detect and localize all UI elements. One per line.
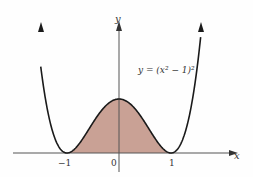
curve-left-arrow-icon [38,22,44,32]
tick-label-neg1: −1 [58,158,71,168]
plot-svg: y x y = (x² − 1)² −1 0 1 [0,0,253,177]
chart-figure: y x y = (x² − 1)² −1 0 1 [0,0,253,177]
curve-right-arrow-icon [198,22,204,32]
x-axis-label: x [234,150,240,161]
equation-label: y = (x² − 1)² [137,65,195,75]
y-axis-label: y [114,13,121,24]
tick-label-1: 1 [169,158,175,168]
tick-label-0: 0 [111,158,117,168]
